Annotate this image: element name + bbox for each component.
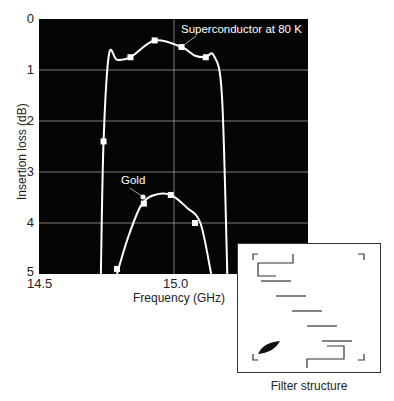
x-tick-15-0: 15.0 xyxy=(163,276,188,291)
data-marker xyxy=(152,37,158,43)
data-marker xyxy=(168,192,174,198)
filter-structure-inset xyxy=(237,243,381,373)
y-tick-1: 1 xyxy=(14,62,34,77)
plot-area xyxy=(39,19,308,274)
y-tick-4: 4 xyxy=(14,215,34,230)
x-axis-label: Frequency (GHz) xyxy=(133,291,225,305)
x-tick-14-5: 14.5 xyxy=(27,276,52,291)
annotation-superconductor: Superconductor at 80 K xyxy=(181,23,302,35)
blob-shape xyxy=(258,341,280,354)
data-marker xyxy=(114,266,120,272)
data-marker xyxy=(101,138,107,144)
inset-caption: Filter structure xyxy=(237,379,381,393)
data-marker xyxy=(192,220,198,226)
annotation-gold: Gold xyxy=(121,174,145,186)
data-marker xyxy=(141,201,147,207)
arrow-head-icon xyxy=(141,195,146,200)
data-marker xyxy=(127,54,133,60)
filter-structure-diagram xyxy=(238,244,380,372)
data-marker xyxy=(203,54,209,60)
arrow-head-icon xyxy=(179,45,184,50)
y-tick-0: 0 xyxy=(14,11,34,26)
y-axis-label: Insertion loss (dB) xyxy=(15,103,29,200)
